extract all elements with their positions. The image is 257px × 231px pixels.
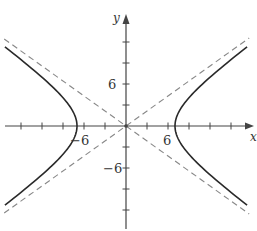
origin-dot xyxy=(124,124,128,128)
x-axis-label: x xyxy=(250,130,257,144)
x-tick-label-6: 6 xyxy=(163,133,171,148)
y-axis-arrow-icon xyxy=(123,14,130,24)
y-tick-label-6: 6 xyxy=(108,77,116,92)
y-axis-label: y xyxy=(112,11,120,25)
x-axis-arrow-icon xyxy=(245,123,254,130)
y-tick-label-neg6: −6 xyxy=(103,161,122,176)
axes xyxy=(5,14,254,229)
hyperbola-plot: −6 6 6 −6 x y xyxy=(0,0,257,231)
x-tick-label-neg6: −6 xyxy=(70,133,89,148)
